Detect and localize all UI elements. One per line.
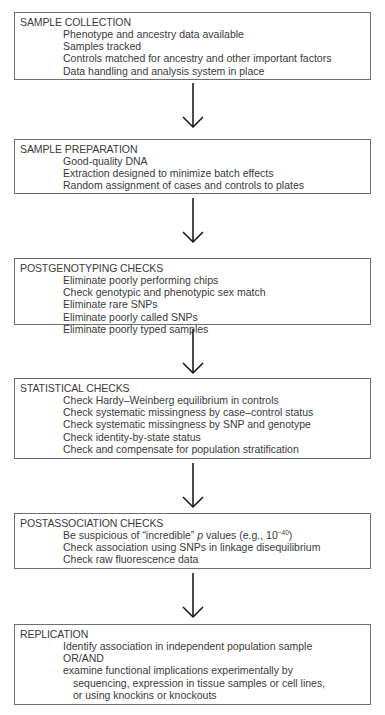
- step-item: Check and compensate for population stra…: [63, 443, 366, 455]
- step-item-p-values: Be suspicious of “incredible” p values (…: [63, 529, 366, 541]
- step-items: Identify association in independent popu…: [20, 640, 366, 701]
- step-item: Eliminate poorly called SNPs: [63, 311, 366, 323]
- down-arrow-icon: [181, 463, 205, 509]
- step-replication: REPLICATION Identify association in inde…: [14, 624, 371, 705]
- step-item: Check raw fluorescence data: [63, 553, 366, 565]
- step-item: or using knockins or knockouts: [63, 689, 366, 701]
- step-sample-collection: SAMPLE COLLECTION Phenotype and ancestry…: [14, 12, 371, 80]
- step-item: Check association using SNPs in linkage …: [63, 541, 366, 553]
- item-text: Be suspicious of “incredible”: [63, 529, 197, 541]
- down-arrow-icon: [181, 573, 205, 619]
- step-item: Phenotype and ancestry data available: [63, 28, 366, 40]
- step-item: Extraction designed to minimize batch ef…: [63, 167, 366, 179]
- step-title: STATISTICAL CHECKS: [20, 382, 366, 394]
- step-item: Controls matched for ancestry and other …: [63, 52, 366, 64]
- step-title: POSTASSOCIATION CHECKS: [20, 517, 366, 529]
- step-items: Be suspicious of “incredible” p values (…: [20, 529, 366, 566]
- step-item: Samples tracked: [63, 40, 366, 52]
- step-title: POSTGENOTYPING CHECKS: [20, 262, 366, 274]
- down-arrow-icon: [181, 83, 205, 129]
- superscript-exponent: −40: [278, 529, 289, 536]
- step-sample-preparation: SAMPLE PREPARATION Good-quality DNA Extr…: [14, 139, 371, 194]
- step-items: Eliminate poorly performing chips Check …: [20, 274, 366, 335]
- step-title: REPLICATION: [20, 628, 366, 640]
- step-item: Eliminate poorly performing chips: [63, 274, 366, 286]
- step-items: Good-quality DNA Extraction designed to …: [20, 155, 366, 192]
- step-item: Eliminate rare SNPs: [63, 298, 366, 310]
- step-postgenotyping-checks: POSTGENOTYPING CHECKS Eliminate poorly p…: [14, 258, 371, 325]
- step-item: Check systematic missingness by SNP and …: [63, 418, 366, 430]
- step-item: Eliminate poorly typed samples: [63, 323, 366, 335]
- step-item: Check genotypic and phenotypic sex match: [63, 286, 366, 298]
- step-item: Check Hardy–Weinberg equilibrium in cont…: [63, 394, 366, 406]
- step-items: Phenotype and ancestry data available Sa…: [20, 28, 366, 77]
- step-item: Identify association in independent popu…: [63, 640, 366, 652]
- step-statistical-checks: STATISTICAL CHECKS Check Hardy–Weinberg …: [14, 378, 371, 459]
- step-item: Check identity-by-state status: [63, 431, 366, 443]
- step-postassociation-checks: POSTASSOCIATION CHECKS Be suspicious of …: [14, 513, 371, 569]
- down-arrow-icon: [181, 329, 205, 375]
- step-item: Random assignment of cases and controls …: [63, 179, 366, 191]
- step-item: OR/AND: [63, 652, 366, 664]
- step-item: Data handling and analysis system in pla…: [63, 65, 366, 77]
- step-title: SAMPLE PREPARATION: [20, 143, 366, 155]
- step-items: Check Hardy–Weinberg equilibrium in cont…: [20, 394, 366, 455]
- item-text: ): [289, 529, 293, 541]
- step-item: Check systematic missingness by case–con…: [63, 406, 366, 418]
- down-arrow-icon: [181, 198, 205, 244]
- step-item: sequencing, expression in tissue samples…: [63, 677, 366, 689]
- step-item: examine functional implications experime…: [63, 664, 366, 676]
- item-text: values (e.g., 10: [203, 529, 278, 541]
- step-title: SAMPLE COLLECTION: [20, 16, 366, 28]
- step-item: Good-quality DNA: [63, 155, 366, 167]
